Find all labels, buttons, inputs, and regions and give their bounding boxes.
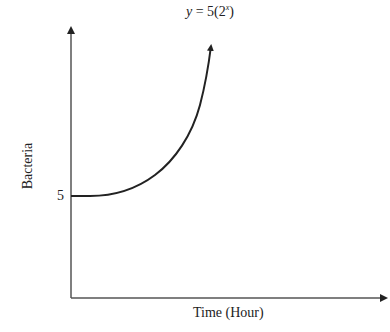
curve-equation-label: y = 5(2x) [186,3,234,20]
y-axis-label: Bacteria [20,143,36,190]
chart-plot-area [0,0,390,332]
y-tick-label: 5 [57,188,64,204]
x-axis-label: Time (Hour) [193,305,264,321]
exponential-curve [71,46,211,196]
